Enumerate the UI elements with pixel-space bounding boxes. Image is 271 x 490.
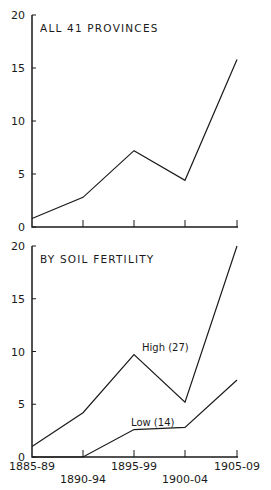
high-series-label: High (27) xyxy=(142,342,189,353)
x-tick-label: 1890-94 xyxy=(60,473,106,486)
x-tick-label: 1885-89 xyxy=(9,460,55,473)
bottom-panel: 05101520 1885-891890-941895-991900-04190… xyxy=(9,240,260,486)
y-tick-label: 10 xyxy=(11,346,25,359)
y-tick-label: 20 xyxy=(11,9,25,22)
bottom-x-ticks: 1885-891890-941895-991900-041905-09 xyxy=(9,450,260,486)
x-tick-label: 1900-04 xyxy=(162,473,208,486)
y-tick-label: 20 xyxy=(11,240,25,253)
y-tick-label: 5 xyxy=(18,398,25,411)
top-y-axis xyxy=(32,15,238,227)
y-tick-label: 10 xyxy=(11,115,25,128)
top-panel: 05101520 ALL 41 PROVINCES xyxy=(11,9,238,234)
bottom-panel-title: BY SOIL FERTILITY xyxy=(40,253,155,265)
low-series-label: Low (14) xyxy=(131,417,174,428)
y-tick-label: 15 xyxy=(11,62,25,75)
y-tick-label: 5 xyxy=(18,168,25,181)
top-panel-title: ALL 41 PROVINCES xyxy=(40,22,159,34)
all-provinces-line xyxy=(32,60,237,219)
top-x-ticks xyxy=(83,220,237,227)
y-tick-label: 0 xyxy=(18,221,25,234)
x-tick-label: 1895-99 xyxy=(111,460,157,473)
x-tick-label: 1905-09 xyxy=(214,460,260,473)
chart-canvas: 05101520 ALL 41 PROVINCES 05101520 1885-… xyxy=(0,0,271,490)
y-tick-label: 15 xyxy=(11,293,25,306)
